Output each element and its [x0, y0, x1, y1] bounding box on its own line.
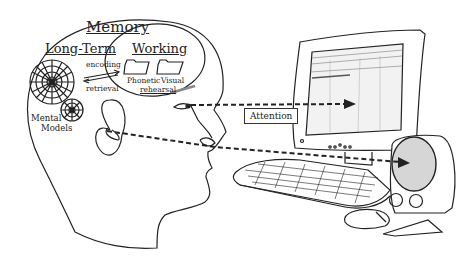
mental-label: Mental: [31, 114, 61, 123]
attention-label: Attention: [244, 108, 298, 124]
web-network-icon: [30, 60, 74, 104]
memory-label: Memory: [86, 20, 149, 35]
models-label: Models: [41, 124, 72, 133]
working-label: Working: [132, 42, 187, 55]
phonetic-label: Phonetic: [127, 77, 160, 85]
folder-icon-phonetic: [124, 60, 149, 74]
visual-attention-line: [191, 104, 344, 105]
speaker-icon: [390, 135, 455, 213]
keyboard-icon: [233, 159, 390, 208]
small-web-icon: [61, 99, 83, 121]
visual-label: Visual: [161, 77, 184, 85]
ear-icon: [96, 100, 125, 155]
retrieval-arrow: [86, 75, 118, 81]
long-term-label: Long-Term: [45, 42, 116, 55]
cognition-diagram: Memory Long-Term Working encoding retrie…: [0, 0, 474, 265]
rehearsal-label: rehearsal: [140, 86, 176, 94]
encoding-label: encoding: [86, 61, 121, 69]
retrieval-label: retrieval: [86, 85, 119, 93]
encoding-arrow: [84, 72, 118, 78]
folder-icon-visual: [157, 60, 183, 74]
